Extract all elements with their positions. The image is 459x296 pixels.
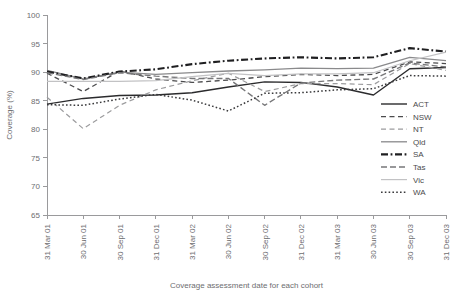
x-tick-label: 31 Mar 01 bbox=[43, 223, 52, 260]
y-tick-label: 70 bbox=[31, 182, 40, 191]
x-tick-label: 31 Dec 02 bbox=[297, 223, 306, 260]
x-axis-ticks: 31 Mar 0130 Jun 0130 Sep 0131 Dec 0131 M… bbox=[43, 215, 451, 260]
y-tick-label: 65 bbox=[31, 211, 40, 220]
axis-titles: Coverage assessment date for each cohort… bbox=[5, 90, 324, 290]
coverage-line-chart: 65707580859095100 31 Mar 0130 Jun 0130 S… bbox=[0, 0, 459, 296]
y-tick-label: 90 bbox=[31, 68, 40, 77]
legend-label-sa: SA bbox=[413, 150, 424, 159]
y-tick-label: 85 bbox=[31, 97, 40, 106]
chart-canvas: 65707580859095100 31 Mar 0130 Jun 0130 S… bbox=[0, 0, 459, 296]
chart-legend: ACTNSWNTQldSATasVicWA bbox=[377, 94, 455, 203]
x-tick-label: 31 Dec 01 bbox=[152, 223, 161, 260]
x-tick-label: 30 Jun 02 bbox=[224, 223, 233, 259]
y-tick-label: 100 bbox=[27, 11, 41, 20]
legend-label-act: ACT bbox=[413, 100, 429, 109]
x-tick-label: 30 Sep 03 bbox=[406, 223, 415, 260]
x-tick-label: 30 Jun 01 bbox=[79, 223, 88, 259]
legend-background bbox=[377, 94, 455, 203]
y-axis-title: Coverage (%) bbox=[5, 90, 14, 140]
y-axis-ticks: 65707580859095100 bbox=[27, 11, 47, 220]
legend-label-tas: Tas bbox=[413, 163, 425, 172]
y-tick-label: 95 bbox=[31, 40, 40, 49]
y-tick-label: 75 bbox=[31, 154, 40, 163]
x-axis-title: Coverage assessment date for each cohort bbox=[170, 281, 324, 290]
legend-label-nt: NT bbox=[413, 125, 424, 134]
x-tick-label: 31 Mar 03 bbox=[333, 223, 342, 260]
x-tick-label: 30 Sep 01 bbox=[116, 223, 125, 260]
legend-label-nsw: NSW bbox=[413, 113, 432, 122]
x-tick-label: 30 Sep 02 bbox=[261, 223, 270, 260]
legend-label-qld: Qld bbox=[413, 138, 425, 147]
x-tick-label: 31 Mar 02 bbox=[188, 223, 197, 260]
x-tick-label: 31 Dec 03 bbox=[442, 223, 451, 260]
legend-label-vic: Vic bbox=[413, 176, 424, 185]
legend-label-wa: WA bbox=[413, 188, 426, 197]
y-tick-label: 80 bbox=[31, 125, 40, 134]
x-tick-label: 30 Jun 03 bbox=[369, 223, 378, 259]
